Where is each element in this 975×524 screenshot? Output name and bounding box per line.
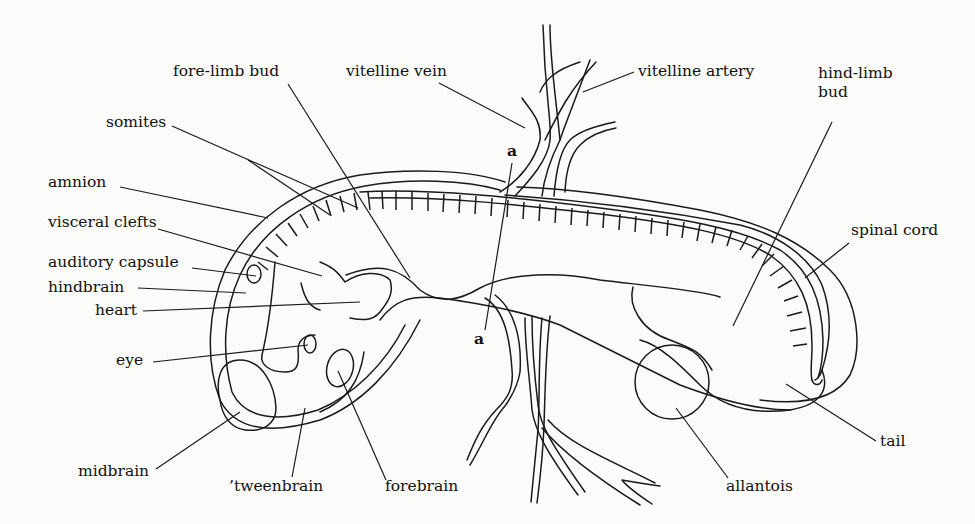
dorsal-outer-line bbox=[517, 187, 857, 402]
eye-circle bbox=[304, 335, 316, 353]
tail-outline bbox=[640, 340, 825, 411]
label-allantois: allantois bbox=[726, 479, 793, 495]
label-auditory-capsule: auditory capsule bbox=[48, 255, 179, 271]
label-somites: somites bbox=[106, 115, 166, 131]
tail-tip bbox=[812, 380, 822, 385]
label-forebrain: forebrain bbox=[385, 479, 458, 495]
auditory-capsule-circle bbox=[247, 265, 261, 283]
embryo-diagram: fore-limb bud vitelline vein vitelline a… bbox=[0, 0, 975, 524]
section-marker-a-top: a bbox=[507, 143, 517, 159]
umbilical-vessel-fork bbox=[622, 480, 660, 504]
label-eye: eye bbox=[116, 353, 143, 369]
vitelline-vessel-c bbox=[550, 25, 560, 140]
gut-lower bbox=[380, 297, 790, 410]
umbilical-vessel-7 bbox=[548, 420, 655, 483]
label-hindbrain: hindbrain bbox=[48, 280, 124, 296]
label-visceral-clefts: visceral clefts bbox=[48, 215, 157, 231]
leader-lines bbox=[120, 72, 876, 480]
section-line-a-a bbox=[485, 163, 512, 330]
label-tweenbrain: ’tweenbrain bbox=[229, 479, 323, 495]
brain-inner-line bbox=[262, 262, 315, 372]
label-spinal-cord: spinal cord bbox=[851, 223, 938, 239]
label-amnion: amnion bbox=[48, 175, 106, 191]
vitelline-vein-right-wall bbox=[515, 25, 550, 196]
heart-fold bbox=[301, 283, 320, 310]
label-heart: heart bbox=[95, 303, 137, 319]
label-vitelline-vein: vitelline vein bbox=[346, 64, 447, 80]
forebrain-outer-arc bbox=[320, 352, 364, 412]
label-hind-limb-bud: hind-limb bud bbox=[818, 64, 893, 103]
umbilical-vessel-1 bbox=[467, 298, 512, 460]
gut-upper bbox=[346, 268, 720, 299]
neural-tube-lower bbox=[370, 198, 812, 380]
label-midbrain: midbrain bbox=[78, 464, 149, 480]
label-vitelline-artery: vitelline artery bbox=[638, 64, 754, 80]
forebrain-vesicle bbox=[323, 346, 358, 389]
label-tail: tail bbox=[880, 434, 905, 450]
pharynx-outline bbox=[320, 262, 391, 320]
umbilical-vessel-8 bbox=[542, 428, 640, 505]
label-fore-limb-bud: fore-limb bud bbox=[173, 64, 279, 80]
section-marker-a-bottom: a bbox=[474, 331, 484, 347]
